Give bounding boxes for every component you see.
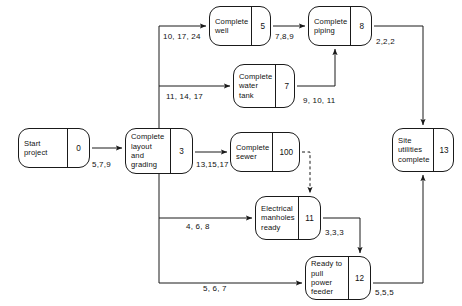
node-label: Site utilities complete — [393, 129, 433, 171]
edge-sewer-manholes — [302, 152, 310, 193]
edge-label-feeder-site: 5,5,5 — [375, 288, 394, 297]
node-complete-well[interactable]: Complete well 5 — [209, 6, 271, 46]
edge-label-manholes-feeder: 3,3,3 — [325, 228, 344, 237]
node-label: Start project — [19, 129, 67, 167]
node-start-project[interactable]: Start project 0 — [18, 128, 90, 168]
edge-label-layout-watertank: 11, 14, 17 — [166, 92, 203, 101]
edge-watertank-piping — [297, 49, 335, 86]
edge-label-start-layout: 5,7,9 — [92, 160, 111, 169]
edge-label-piping-site: 2,2,2 — [376, 37, 395, 46]
node-complete-water-tank[interactable]: Complete water tank 7 — [233, 64, 295, 108]
edge-feeder-site — [373, 175, 423, 283]
node-id: 100 — [272, 133, 299, 171]
edge-label-layout-well: 10, 17, 24 — [163, 32, 201, 41]
node-id: 12 — [348, 257, 370, 299]
node-complete-sewer[interactable]: Complete sewer 100 — [230, 132, 300, 172]
node-label: Ready to pull power feeder — [306, 257, 348, 299]
node-id: 3 — [170, 129, 192, 173]
node-label: Complete well — [210, 7, 251, 45]
node-id: 0 — [67, 129, 89, 167]
node-id: 8 — [350, 7, 372, 45]
edge-label-layout-manholes: 4, 6, 8 — [186, 222, 210, 231]
node-id: 5 — [251, 7, 273, 45]
node-ready-to-pull-power-feeder[interactable]: Ready to pull power feeder 12 — [305, 256, 371, 300]
node-id: 11 — [298, 197, 320, 239]
node-label: Complete layout and grading — [126, 129, 170, 173]
edge-label-watertank-piping: 9, 10, 11 — [303, 96, 335, 105]
node-complete-piping[interactable]: Complete piping 8 — [308, 6, 372, 46]
node-label: Electrical manholes ready — [256, 197, 298, 239]
node-label: Complete sewer — [231, 133, 272, 171]
edge-label-well-piping: 7,8,9 — [275, 32, 294, 41]
node-id: 7 — [275, 65, 297, 107]
node-label: Complete piping — [309, 7, 350, 45]
edge-label-layout-feeder: 5, 6, 7 — [203, 284, 227, 293]
edge-label-layout-sewer: 13,15,17 — [196, 160, 229, 169]
node-complete-layout-and-grading[interactable]: Complete layout and grading 3 — [125, 128, 193, 174]
node-id: 13 — [433, 129, 455, 171]
node-site-utilities-complete[interactable]: Site utilities complete 13 — [392, 128, 454, 172]
node-electrical-manholes-ready[interactable]: Electrical manholes ready 11 — [255, 196, 321, 240]
node-label: Complete water tank — [234, 65, 275, 107]
network-diagram: Start project 0 Complete layout and grad… — [0, 0, 462, 306]
